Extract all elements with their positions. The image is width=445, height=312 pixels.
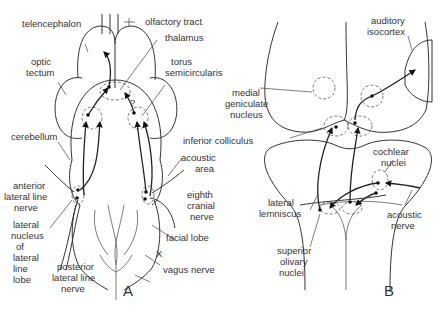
torus-left [82,107,102,129]
panel-label-a: A [123,282,133,299]
label-question: ? [130,97,135,108]
label-thalamus: thalamus [165,32,204,43]
label-lat-lem-1: lateral [268,197,294,208]
label-lat-nuc-2: nucleus [11,230,44,241]
label-eighth-3: nerve [190,211,214,222]
label-x: X [156,248,163,259]
panel-a-labels: telencephalon olfactory tract thalamus o… [4,16,223,299]
label-lat-nuc-4: lateral [13,252,39,263]
label-optic-tectum-1: optic [31,56,51,67]
label-mgn-3: nucleus [230,109,263,120]
label-son-1: superior [277,245,311,256]
label-lat-nuc-6: lobe [13,274,31,285]
label-anterior-lln-1: anterior [13,180,45,191]
panel-a-fish-brain [45,14,184,300]
label-acoustic-nerve-1: acoustic [387,209,422,220]
label-cochlear-1: cochlear [373,146,409,157]
label-facial-lobe: facial lobe [166,232,209,243]
label-posterior-lln-2: lateral line [52,272,95,283]
label-acoustic-area-1: acoustic [181,152,216,163]
panel-b-labels: auditory isocortex medial geniculate nuc… [183,15,422,299]
cochlear-nuclei [372,170,388,190]
label-telencephalon: telencephalon [22,18,81,29]
label-auditory-2: isocortex [367,26,405,37]
label-lat-lem-2: lemniscus [259,208,301,219]
label-eighth-2: cranial [187,200,215,211]
label-posterior-lln-3: nerve [61,283,85,294]
label-mgn-1: medial [232,87,260,98]
label-torus-2: semicircularis [165,67,223,78]
son-right [342,202,362,214]
label-vagus: vagus nerve [163,264,215,275]
label-olfactory-tract: olfactory tract [145,16,202,27]
panel-label-b: B [384,282,394,299]
medial-geniculate-left [313,77,335,99]
label-son-2: olivary [280,256,308,267]
label-mgn-2: geniculate [225,98,268,109]
label-anterior-lln-2: lateral line [4,191,47,202]
label-inf-coll: inferior colliculus [183,135,253,146]
label-eighth-1: eighth [187,189,213,200]
label-auditory-1: auditory [371,15,405,26]
label-acoustic-nerve-2: nerve [391,220,415,231]
label-optic-tectum-2: tectum [26,67,55,78]
label-lat-nuc-5: line [13,263,28,274]
label-cerebellum: cerebellum [11,131,58,142]
label-cochlear-2: nuclei [381,157,406,168]
label-anterior-lln-3: nerve [14,202,38,213]
label-acoustic-area-2: area [195,163,215,174]
label-lat-nuc-3: of [16,241,24,252]
label-torus-1: torus [171,56,192,67]
label-son-3: nuclei [279,267,304,278]
diagram-canvas: telencephalon olfactory tract thalamus o… [0,0,445,312]
label-lat-nuc-1: lateral [13,219,39,230]
figure: telencephalon olfactory tract thalamus o… [0,0,445,312]
label-posterior-lln-1: posterior [57,261,94,272]
inferior-colliculus-right [348,116,372,136]
